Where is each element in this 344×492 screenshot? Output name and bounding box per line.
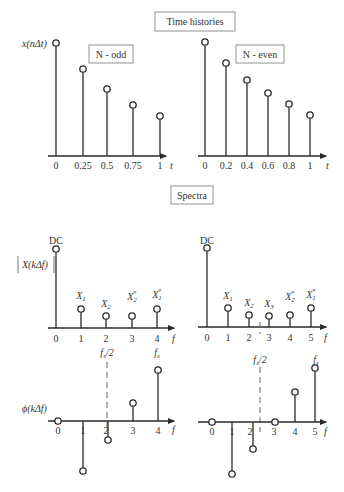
magnitude-ylabel: X(kΔf) bbox=[21, 259, 49, 271]
svg-text:f: f bbox=[172, 333, 176, 344]
svg-text:0: 0 bbox=[54, 333, 59, 344]
svg-text:1: 1 bbox=[226, 332, 231, 343]
svg-text:fs/2: fs/2 bbox=[100, 347, 113, 360]
svg-text:1: 1 bbox=[81, 425, 86, 436]
svg-text:X2: X2 bbox=[100, 298, 111, 311]
svg-text:5: 5 bbox=[313, 426, 318, 437]
svg-text:ϕ(kΔf): ϕ(kΔf) bbox=[22, 403, 48, 415]
spectrum-odd-magnitude: DC X(kΔf) f X1 X2 X2* X1* 0 1 2 3 4 fs/2… bbox=[18, 235, 176, 360]
svg-text:3: 3 bbox=[130, 333, 135, 344]
n-even-label: N - even bbox=[243, 49, 277, 60]
svg-text:X1*: X1* bbox=[305, 287, 316, 302]
svg-text:0.6: 0.6 bbox=[262, 160, 275, 171]
svg-text:0.75: 0.75 bbox=[124, 160, 142, 171]
svg-text:DC: DC bbox=[49, 235, 63, 246]
svg-text:4: 4 bbox=[288, 332, 293, 343]
svg-text:0.4: 0.4 bbox=[241, 160, 254, 171]
spectra-title: Spectra bbox=[171, 186, 213, 204]
svg-text:0: 0 bbox=[205, 332, 210, 343]
svg-text:4: 4 bbox=[293, 426, 298, 437]
svg-text:3: 3 bbox=[131, 425, 136, 436]
svg-text:f: f bbox=[172, 424, 176, 435]
svg-text:X3: X3 bbox=[263, 298, 274, 311]
svg-text:0.8: 0.8 bbox=[283, 160, 296, 171]
phase-odd-plot: ϕ(kΔf) f 0 1 2 3 4 bbox=[22, 367, 176, 474]
svg-text:4: 4 bbox=[156, 425, 161, 436]
dft-diagram: Time histories x(nΔt) N - odd t 0 0.25 0… bbox=[0, 0, 344, 492]
spectrum-even-magnitude: DC f X1 X2 X3 X2* X1* 0 1 2 3 4 5 fs/2 f… bbox=[198, 235, 328, 367]
svg-text:0: 0 bbox=[54, 160, 59, 171]
svg-text:2: 2 bbox=[104, 425, 109, 436]
svg-text:X2: X2 bbox=[243, 297, 254, 310]
svg-text:X1: X1 bbox=[222, 290, 233, 303]
time-odd-plot: x(nΔt) N - odd t 0 0.25 0.5 0.75 1 bbox=[21, 38, 173, 171]
svg-text:2: 2 bbox=[104, 333, 109, 344]
svg-text:0: 0 bbox=[56, 425, 61, 436]
svg-text:0.5: 0.5 bbox=[101, 160, 114, 171]
n-odd-label: N - odd bbox=[96, 49, 127, 60]
svg-text:fs: fs bbox=[154, 347, 160, 360]
svg-text:3: 3 bbox=[267, 332, 272, 343]
svg-text:2: 2 bbox=[247, 332, 252, 343]
svg-text:Time histories: Time histories bbox=[166, 16, 223, 27]
svg-text:f: f bbox=[324, 332, 328, 343]
svg-text:X1: X1 bbox=[75, 290, 86, 303]
svg-text:0.2: 0.2 bbox=[220, 160, 233, 171]
phase-even-plot: f 0 1 2 3 4 5 bbox=[198, 365, 328, 477]
svg-text:X1*: X1* bbox=[151, 287, 162, 302]
svg-text:0: 0 bbox=[203, 160, 208, 171]
svg-text:t: t bbox=[170, 160, 173, 171]
svg-text:X2*: X2* bbox=[284, 289, 295, 304]
svg-text:fs/2: fs/2 bbox=[253, 354, 266, 367]
svg-text:X2*: X2* bbox=[126, 289, 137, 304]
svg-text:5: 5 bbox=[309, 332, 314, 343]
svg-text:4: 4 bbox=[155, 333, 160, 344]
svg-text:1: 1 bbox=[158, 160, 163, 171]
svg-text:0: 0 bbox=[210, 426, 215, 437]
svg-text:Spectra: Spectra bbox=[177, 190, 208, 201]
svg-text:2: 2 bbox=[248, 426, 253, 437]
svg-text:3: 3 bbox=[272, 426, 277, 437]
svg-text:f: f bbox=[324, 426, 328, 437]
time-odd-ylabel: x(nΔt) bbox=[21, 38, 47, 50]
time-even-plot: N - even t 0 0.2 0.4 0.6 0.8 1 bbox=[198, 39, 329, 171]
svg-text:1: 1 bbox=[308, 160, 313, 171]
svg-text:t: t bbox=[326, 160, 329, 171]
time-histories-title: Time histories bbox=[155, 12, 235, 31]
svg-text:1: 1 bbox=[79, 333, 84, 344]
svg-text:0.25: 0.25 bbox=[74, 160, 92, 171]
svg-text:1: 1 bbox=[230, 426, 235, 437]
